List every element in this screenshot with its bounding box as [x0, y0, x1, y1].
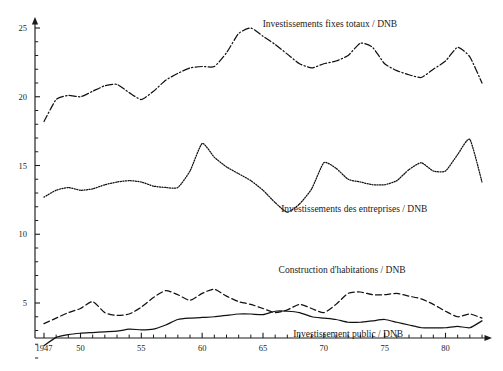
x-tick-label: 80	[441, 343, 450, 353]
series-line-4	[44, 311, 482, 346]
x-axis-ticks	[44, 333, 482, 338]
y-axis-ticks	[35, 28, 40, 358]
x-tick-label: 50	[76, 343, 85, 353]
series-annotations: Investissements fixes totaux / DNBInvest…	[263, 19, 428, 340]
y-tick-label: 10	[19, 229, 28, 239]
series-line-3	[44, 289, 482, 323]
x-tick-label: 60	[198, 343, 207, 353]
x-tick-label: 70	[320, 343, 329, 353]
x-tick-label: 75	[380, 343, 389, 353]
series-line-1	[44, 28, 482, 122]
y-tick-label: 25	[19, 23, 28, 33]
series-annotation-2: Investissements des entreprises / DNB	[281, 204, 427, 214]
x-axis-tick-labels: 194750556065707580	[36, 343, 450, 353]
x-axis: 194750556065707580	[35, 333, 492, 353]
series-line-2	[44, 139, 482, 212]
chart-canvas: 510152025 194750556065707580 Investissem…	[0, 0, 503, 371]
y-axis: 510152025	[19, 17, 41, 358]
series-annotation-4: Investissement public / DNB	[293, 329, 403, 339]
y-axis-arrowhead	[32, 17, 38, 25]
y-tick-label: 15	[19, 161, 28, 171]
x-axis-arrowhead	[485, 335, 493, 341]
x-tick-label: 1947	[36, 343, 53, 353]
series-annotation-1: Investissements fixes totaux / DNB	[263, 19, 398, 29]
series-annotation-3: Construction d'habitations / DNB	[279, 265, 406, 275]
y-axis-tick-labels: 510152025	[19, 23, 28, 308]
x-tick-label: 65	[259, 343, 268, 353]
x-tick-label: 55	[137, 343, 146, 353]
y-tick-label: 20	[19, 92, 28, 102]
series-curves	[44, 28, 482, 346]
investment-ratio-chart: 510152025 194750556065707580 Investissem…	[0, 0, 503, 371]
y-tick-label: 5	[23, 298, 27, 308]
